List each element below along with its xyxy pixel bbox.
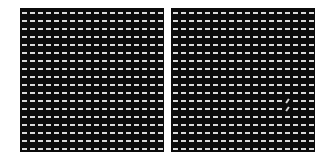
dash	[110, 92, 115, 94]
dash	[261, 92, 266, 94]
dash	[181, 36, 186, 38]
dash	[70, 36, 75, 38]
dash	[237, 28, 242, 30]
dash	[277, 52, 282, 54]
dash	[253, 84, 258, 86]
dash	[301, 140, 306, 142]
dash	[301, 100, 306, 102]
dash	[285, 68, 290, 70]
dash	[173, 140, 178, 142]
dash	[70, 140, 75, 142]
dash	[181, 108, 186, 110]
dash	[118, 116, 123, 118]
dash	[173, 52, 178, 54]
dash	[253, 52, 258, 54]
dash	[229, 124, 234, 126]
dash	[54, 148, 59, 150]
dash	[213, 76, 218, 78]
dash	[173, 132, 178, 134]
dash	[102, 68, 107, 70]
dash	[142, 100, 147, 102]
dash	[237, 84, 242, 86]
dash	[197, 12, 202, 14]
dash	[22, 52, 27, 54]
dash	[269, 20, 274, 22]
dash	[70, 44, 75, 46]
dash	[261, 100, 266, 102]
dash	[277, 20, 282, 22]
dash	[38, 132, 43, 134]
dash	[197, 60, 202, 62]
dash	[213, 100, 218, 102]
dash	[285, 36, 290, 38]
dash	[213, 140, 218, 142]
dash	[277, 36, 282, 38]
dash	[277, 132, 282, 134]
dash	[110, 44, 115, 46]
dash	[94, 28, 99, 30]
dash	[229, 116, 234, 118]
dash	[197, 28, 202, 30]
dash	[126, 76, 131, 78]
dash	[261, 84, 266, 86]
dash	[189, 20, 194, 22]
dash	[253, 116, 258, 118]
dash	[269, 28, 274, 30]
dash	[285, 12, 290, 14]
dash	[301, 68, 306, 70]
dash	[181, 60, 186, 62]
dash	[229, 84, 234, 86]
dash	[22, 100, 27, 102]
dash	[62, 44, 67, 46]
dash	[229, 12, 234, 14]
dash	[181, 124, 186, 126]
dash	[293, 12, 298, 14]
dash	[78, 12, 83, 14]
dash	[46, 132, 51, 134]
dash	[150, 12, 155, 14]
dash	[78, 84, 83, 86]
dash	[309, 12, 314, 14]
dash	[118, 28, 123, 30]
dash	[158, 52, 163, 54]
dash	[22, 20, 27, 22]
dash	[309, 36, 314, 38]
dash	[142, 124, 147, 126]
dash	[94, 148, 99, 150]
dash	[78, 132, 83, 134]
dash	[78, 100, 83, 102]
dash	[54, 36, 59, 38]
dash	[118, 108, 123, 110]
dash	[285, 116, 290, 118]
dash	[62, 60, 67, 62]
dash	[30, 52, 35, 54]
dash	[189, 36, 194, 38]
dash	[102, 60, 107, 62]
dash	[142, 60, 147, 62]
dash	[54, 44, 59, 46]
dash	[86, 44, 91, 46]
dash	[213, 108, 218, 110]
dash	[62, 148, 67, 150]
dash	[62, 124, 67, 126]
dash	[30, 28, 35, 30]
dash	[102, 92, 107, 94]
dash	[189, 44, 194, 46]
dash	[205, 84, 210, 86]
dash	[118, 36, 123, 38]
dash	[245, 68, 250, 70]
dash	[22, 116, 27, 118]
dash	[205, 20, 210, 22]
dash	[102, 28, 107, 30]
dash	[126, 28, 131, 30]
dash	[285, 148, 290, 150]
dash	[70, 60, 75, 62]
dash	[181, 148, 186, 150]
dash	[213, 124, 218, 126]
dash	[126, 84, 131, 86]
dash	[78, 20, 83, 22]
dash	[150, 100, 155, 102]
dash	[150, 44, 155, 46]
dash	[285, 132, 290, 134]
dash	[134, 148, 139, 150]
